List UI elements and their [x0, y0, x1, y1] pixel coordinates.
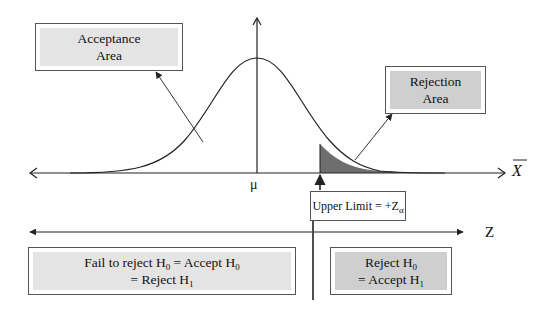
reject-line1: Reject H0	[365, 254, 417, 271]
fail-to-reject-line1: Fail to reject H0 = Accept H0	[84, 254, 239, 271]
fail-to-reject-line2: = Reject H1	[130, 271, 193, 288]
acceptance-line2: Area	[96, 47, 122, 64]
rejection-line2: Area	[422, 90, 448, 107]
reject-region-label: Reject H0 = Accept H1	[330, 247, 452, 295]
rejection-region-shading	[320, 144, 440, 173]
mean-label: μ	[250, 177, 258, 193]
upper-limit-label: Upper Limit = +Zα	[310, 191, 406, 221]
reject-line2: = Accept H1	[358, 271, 424, 288]
rejection-pointer-arrow	[355, 114, 392, 160]
rejection-area-label: Rejection Area	[385, 66, 486, 114]
z-axis-label: Z	[485, 224, 494, 241]
acceptance-line1: Acceptance	[78, 30, 141, 47]
rejection-line1: Rejection	[410, 73, 462, 90]
upper-limit-text: Upper Limit = +Zα	[312, 198, 403, 215]
acceptance-pointer-arrow	[156, 72, 203, 142]
fail-to-reject-region-label: Fail to reject H0 = Accept H0 = Reject H…	[28, 247, 296, 295]
xbar-axis-label: X	[512, 162, 522, 180]
acceptance-area-label: Acceptance Area	[35, 23, 183, 71]
